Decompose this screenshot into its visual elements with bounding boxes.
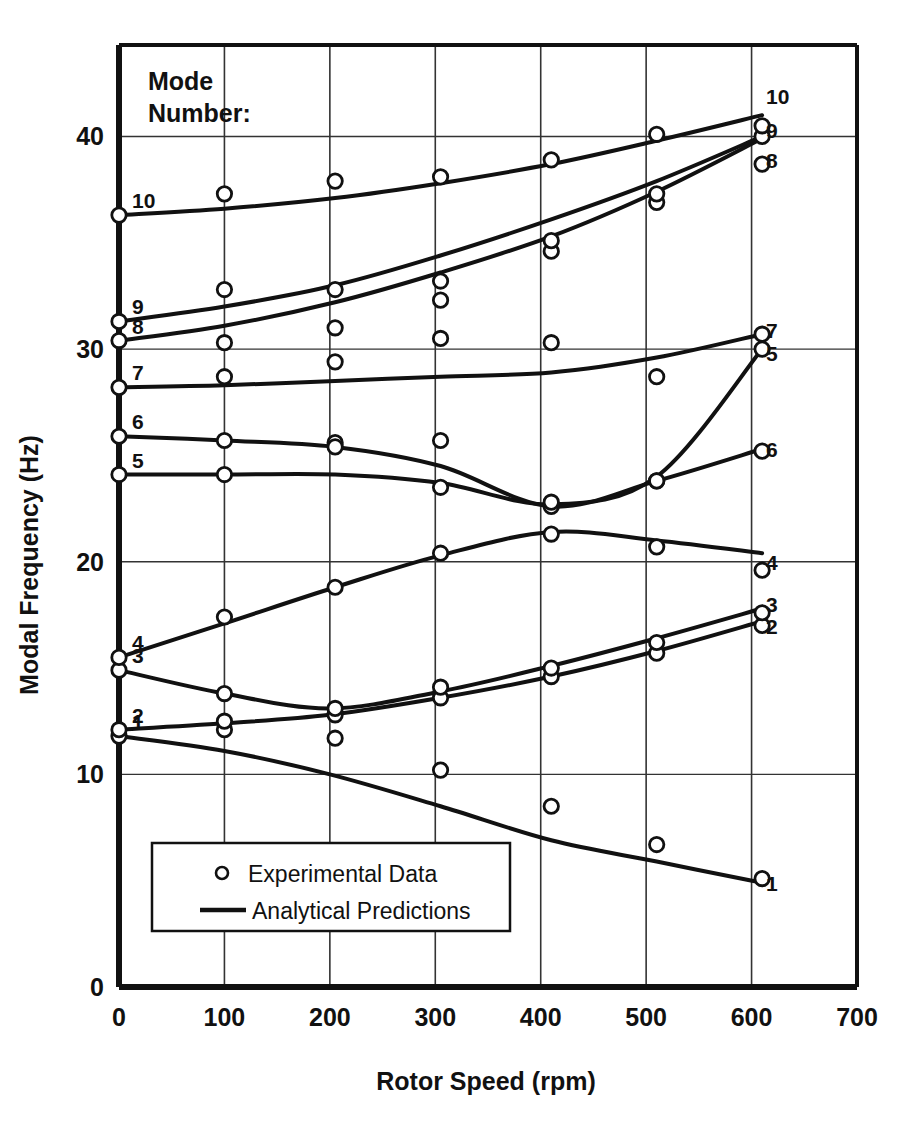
data-point-mode-1 [328, 731, 342, 745]
data-point-mode-9 [217, 282, 231, 296]
data-point-mode-7 [433, 331, 447, 345]
data-point-mode-10 [649, 127, 663, 141]
y-tick-label: 0 [90, 973, 104, 1001]
mode-label-left-1: 1 [132, 710, 144, 733]
data-point-mode-1 [433, 763, 447, 777]
x-tick-label: 200 [309, 1003, 351, 1031]
data-point-mode-8 [112, 333, 126, 347]
data-point-mode-9 [112, 314, 126, 328]
data-point-mode-6 [649, 474, 663, 488]
legend-label-analytical: Analytical Predictions [252, 898, 471, 924]
mode-label-left-8: 8 [132, 315, 144, 338]
x-tick-label: 500 [625, 1003, 667, 1031]
mode-label-right-10: 10 [766, 85, 789, 108]
x-tick-label: 600 [731, 1003, 773, 1031]
data-point-mode-9 [649, 187, 663, 201]
data-point-mode-4 [217, 610, 231, 624]
y-tick-label: 10 [76, 760, 104, 788]
mode-label-right-7: 7 [766, 319, 778, 342]
y-tick-label: 40 [76, 122, 104, 150]
x-tick-label: 0 [112, 1003, 126, 1031]
data-point-mode-9 [328, 282, 342, 296]
data-point-mode-10 [433, 170, 447, 184]
y-tick-label: 30 [76, 335, 104, 363]
data-point-mode-6 [112, 429, 126, 443]
data-point-mode-2 [112, 723, 126, 737]
data-point-mode-1 [544, 799, 558, 813]
x-tick-label: 100 [204, 1003, 246, 1031]
data-point-mode-3 [328, 701, 342, 715]
data-point-mode-3 [217, 686, 231, 700]
data-point-mode-6 [217, 433, 231, 447]
data-point-mode-5 [217, 467, 231, 481]
data-point-mode-10 [328, 174, 342, 188]
mode-label-left-3: 3 [132, 644, 144, 667]
x-axis-title: Rotor Speed (rpm) [376, 1067, 595, 1095]
data-point-mode-9 [544, 233, 558, 247]
data-point-mode-1 [649, 837, 663, 851]
mode-label-left-6: 6 [132, 410, 144, 433]
legend-label-experimental: Experimental Data [248, 861, 437, 887]
mode-label-left-7: 7 [132, 361, 144, 384]
data-point-mode-4 [433, 546, 447, 560]
y-tick-label: 20 [76, 548, 104, 576]
data-point-mode-7 [112, 380, 126, 394]
data-point-mode-9 [433, 274, 447, 288]
data-point-mode-5 [433, 480, 447, 494]
campbell-diagram-chart: 0100200300400500600700 010203040 1098765… [0, 0, 902, 1123]
data-point-mode-8 [433, 293, 447, 307]
data-point-mode-6 [544, 495, 558, 509]
mode-label-right-4: 4 [766, 551, 778, 574]
data-point-mode-7 [649, 370, 663, 384]
data-point-mode-3 [649, 635, 663, 649]
mode-label-right-3: 3 [766, 593, 778, 616]
data-point-mode-3 [544, 661, 558, 675]
data-point-mode-6 [328, 440, 342, 454]
data-point-mode-8 [328, 321, 342, 335]
data-point-mode-6 [433, 433, 447, 447]
y-axis-title: Modal Frequency (Hz) [15, 435, 43, 695]
mode-label-right-5: 5 [766, 342, 778, 365]
data-point-mode-4 [328, 580, 342, 594]
mode-label-right-2: 2 [766, 615, 778, 638]
data-point-mode-10 [544, 153, 558, 167]
data-point-mode-2 [217, 714, 231, 728]
data-point-mode-5 [112, 467, 126, 481]
data-point-mode-7 [217, 370, 231, 384]
mode-label-right-6: 6 [766, 438, 778, 461]
data-point-mode-7 [544, 335, 558, 349]
data-point-mode-3 [433, 680, 447, 694]
data-point-mode-10 [217, 187, 231, 201]
mode-number-annotation-line1: Mode [148, 67, 213, 95]
data-point-mode-8 [217, 335, 231, 349]
x-tick-label: 300 [414, 1003, 456, 1031]
mode-label-right-1: 1 [766, 872, 778, 895]
mode-label-left-10: 10 [132, 189, 155, 212]
data-point-mode-4 [112, 650, 126, 664]
data-point-mode-7 [328, 355, 342, 369]
mode-label-right-9: 9 [766, 119, 778, 142]
mode-label-right-8: 8 [766, 149, 778, 172]
data-point-mode-10 [112, 208, 126, 222]
data-point-mode-4 [544, 527, 558, 541]
x-tick-label: 700 [836, 1003, 878, 1031]
data-point-mode-4 [649, 540, 663, 554]
x-tick-label: 400 [520, 1003, 562, 1031]
mode-label-left-5: 5 [132, 449, 144, 472]
figure-container: 0100200300400500600700 010203040 1098765… [0, 0, 902, 1123]
legend: Experimental Data Analytical Predictions [152, 843, 510, 931]
mode-number-annotation-line2: Number: [148, 99, 251, 127]
